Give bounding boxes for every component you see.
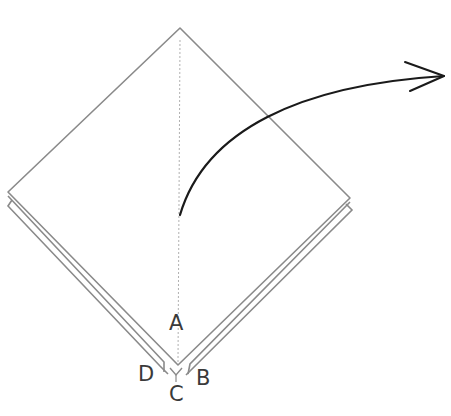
label-a: A xyxy=(169,313,183,334)
label-d: D xyxy=(138,364,154,385)
origami-diagram xyxy=(0,0,451,416)
label-b: B xyxy=(196,368,210,389)
label-c: C xyxy=(169,384,184,405)
